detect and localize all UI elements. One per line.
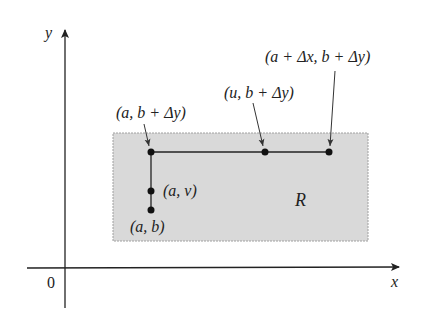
label-a-dx-b-dy: (a + Δx, b + Δy) [265,48,370,66]
point-a-dx-b-dy [326,149,333,156]
y-axis-label: y [43,24,53,42]
diagram-canvas: y x 0 R (a, b + Δy) (u, b + Δy) (a + Δx,… [0,0,426,323]
x-axis [27,267,399,268]
label-a-b-dy: (a, b + Δy) [116,104,186,122]
label-a-b: (a, b) [130,218,165,236]
point-a-b-dy [148,149,155,156]
x-axis-label: x [390,273,398,290]
label-a-v: (a, v) [163,182,197,200]
label-u-b-dy: (u, b + Δy) [224,84,294,102]
point-a-b [148,207,155,214]
origin-label: 0 [47,274,55,291]
point-u-b-dy [262,149,269,156]
point-a-v [148,188,155,195]
region-label: R [294,190,306,210]
